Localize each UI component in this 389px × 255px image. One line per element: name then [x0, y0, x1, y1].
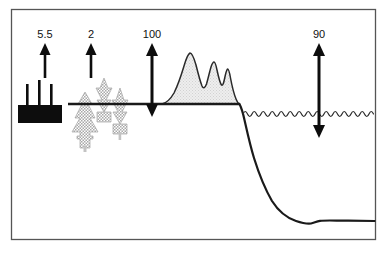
conifer-trees-icon	[72, 78, 128, 152]
factory-icon	[18, 80, 62, 123]
conifer-tree	[112, 88, 128, 134]
conifer-tree	[72, 92, 98, 148]
mountain-peaks-area	[162, 53, 239, 104]
factory-body	[18, 105, 62, 123]
annotation-forest-emission: 2	[86, 28, 97, 78]
arrow-up-icon	[86, 43, 97, 78]
annotation-label-sea-depth: 90	[313, 28, 325, 40]
annotation-sea-depth: 90	[313, 28, 325, 138]
diagram-canvas: 5.5 2 100 90	[0, 0, 389, 255]
outer-frame	[12, 10, 376, 240]
diagram-svg: 5.5 2 100 90	[0, 0, 389, 255]
sea-surface-wave	[243, 112, 374, 117]
conifer-tree	[96, 78, 112, 122]
arrow-up-icon	[40, 43, 51, 78]
annotation-factory-emission: 5.5	[37, 28, 52, 78]
annotation-label-forest-emission: 2	[88, 28, 94, 40]
annotation-label-factory-emission: 5.5	[37, 28, 52, 40]
annotation-label-land-height: 100	[143, 28, 161, 40]
arrow-double-vertical-icon	[146, 43, 158, 117]
arrow-double-vertical-icon	[313, 43, 325, 138]
terrain-profile-curve	[240, 104, 375, 224]
